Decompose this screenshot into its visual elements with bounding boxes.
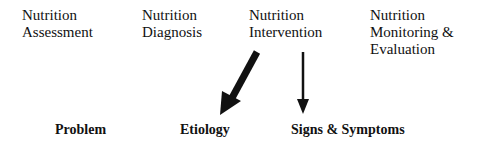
step-label-line: Monitoring & [370, 24, 454, 41]
thick-arrow-icon [220, 52, 257, 115]
step-label-line: Evaluation [370, 41, 454, 58]
step-label-line: Diagnosis [142, 24, 202, 41]
pes-etiology-label: Etiology [180, 122, 230, 138]
step-label-line: Nutrition [249, 7, 322, 24]
step-label-line: Intervention [249, 24, 322, 41]
pes-problem-label: Problem [55, 122, 106, 138]
step-nutrition-intervention: Nutrition Intervention [249, 7, 322, 41]
step-label-line: Nutrition [142, 7, 202, 24]
step-nutrition-diagnosis: Nutrition Diagnosis [142, 7, 202, 41]
step-label-line: Nutrition [22, 7, 93, 24]
pes-signs-symptoms-label: Signs & Symptoms [291, 122, 405, 138]
step-label-line: Assessment [22, 24, 93, 41]
step-nutrition-assessment: Nutrition Assessment [22, 7, 93, 41]
step-label-line: Nutrition [370, 7, 454, 24]
thin-arrow-icon [297, 52, 309, 114]
step-nutrition-monitoring-evaluation: Nutrition Monitoring & Evaluation [370, 7, 454, 58]
